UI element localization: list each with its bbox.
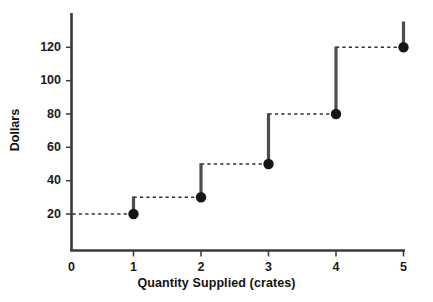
data-point-4: [331, 109, 341, 119]
data-point-2: [196, 192, 206, 202]
x-tick-label-3: 3: [255, 261, 282, 274]
step-risers: [134, 22, 404, 215]
y-tick-label-20: 20: [27, 208, 61, 221]
y-axis-title: Dollars: [9, 121, 22, 151]
x-tick-label-0: 0: [58, 261, 85, 274]
y-tick-label-60: 60: [27, 141, 61, 154]
x-tick-label-1: 1: [120, 261, 147, 274]
x-tick-label-5: 5: [390, 261, 417, 274]
y-tick-label-120: 120: [27, 41, 61, 54]
y-tick-label-80: 80: [27, 108, 61, 121]
y-tick-label-100: 100: [27, 74, 61, 87]
chart-plot-area: [0, 0, 433, 302]
step-connectors: [73, 47, 404, 214]
data-point-3: [263, 159, 273, 169]
x-tick-label-4: 4: [323, 261, 350, 274]
x-axis-title: Quantity Supplied (crates): [0, 277, 433, 290]
data-point-5: [398, 42, 408, 52]
y-tick-label-40: 40: [27, 174, 61, 187]
supply-step-chart: 120 100 80 60 40 20 0 1 2 3 4 5 Quantity…: [0, 0, 433, 302]
data-point-1: [128, 209, 138, 219]
x-tick-label-2: 2: [188, 261, 215, 274]
